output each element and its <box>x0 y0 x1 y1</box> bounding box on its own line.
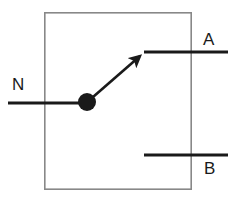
switch-enclosure-rect <box>45 13 191 189</box>
spdt-switch-diagram: N A B <box>0 0 228 202</box>
schematic-canvas <box>0 0 228 202</box>
terminal-label-n: N <box>12 76 24 93</box>
terminal-label-b: B <box>204 160 215 177</box>
switch-blade-arrow[interactable] <box>93 57 140 98</box>
switch-pivot-dot <box>78 93 96 111</box>
terminal-label-a: A <box>203 31 214 48</box>
